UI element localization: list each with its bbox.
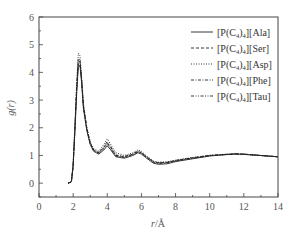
legend-label: [P(C4)4][Ala] bbox=[217, 27, 270, 39]
y-tick-label: 4 bbox=[29, 67, 34, 78]
legend-item: [P(C4)4][Ser] bbox=[191, 43, 269, 55]
legend: [P(C4)4][Ala][P(C4)4][Ser][P(C4)4][Asp][… bbox=[191, 27, 272, 103]
plot-series-group bbox=[68, 53, 278, 183]
y-axis-ticks: 0123456 bbox=[29, 12, 43, 198]
x-tick-label: 0 bbox=[37, 201, 42, 212]
x-tick-label: 14 bbox=[273, 201, 283, 212]
chart-figure: 02468101214 0123456 r/Å g(r) [P(C4)4][Al… bbox=[0, 0, 297, 241]
x-tick-label: 2 bbox=[71, 201, 76, 212]
x-tick-label: 8 bbox=[173, 201, 178, 212]
x-axis-title: r/Å bbox=[151, 218, 166, 229]
y-tick-label: 5 bbox=[29, 39, 34, 50]
legend-label: [P(C4)4][Tau] bbox=[217, 91, 271, 103]
y-tick-label: 1 bbox=[29, 150, 34, 161]
x-axis-ticks: 02468101214 bbox=[37, 193, 284, 212]
legend-item: [P(C4)4][Asp] bbox=[191, 59, 272, 71]
x-tick-label: 12 bbox=[239, 201, 249, 212]
legend-item: [P(C4)4][Tau] bbox=[191, 91, 271, 103]
y-tick-label: 0 bbox=[29, 178, 34, 189]
x-tick-label: 4 bbox=[105, 201, 110, 212]
legend-label: [P(C4)4][Phe] bbox=[217, 75, 271, 87]
x-tick-label: 10 bbox=[205, 201, 215, 212]
legend-label: [P(C4)4][Ser] bbox=[217, 43, 269, 55]
y-tick-label: 3 bbox=[29, 95, 34, 106]
y-axis-title: g(r) bbox=[5, 100, 17, 116]
y-tick-label: 2 bbox=[29, 122, 34, 133]
series-line-2 bbox=[68, 53, 278, 183]
legend-item: [P(C4)4][Phe] bbox=[191, 75, 271, 87]
legend-label: [P(C4)4][Asp] bbox=[217, 59, 272, 71]
legend-item: [P(C4)4][Ala] bbox=[191, 27, 270, 39]
y-tick-label: 6 bbox=[29, 12, 34, 23]
x-tick-label: 6 bbox=[139, 201, 144, 212]
